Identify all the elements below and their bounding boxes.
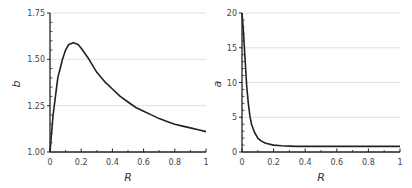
y-tick-label: 15 bbox=[227, 44, 237, 53]
y-tick-label: 1.00 bbox=[27, 148, 45, 157]
y-tick-label: 1.50 bbox=[27, 55, 45, 64]
y-tick-label: 20 bbox=[227, 9, 237, 18]
left-y-axis-label: b bbox=[10, 80, 23, 87]
x-tick-label: 0.6 bbox=[330, 158, 343, 167]
y-tick-label: 1.75 bbox=[27, 9, 45, 18]
x-tick-label: 0.6 bbox=[137, 158, 150, 167]
right-ticks: 0510152000.20.40.60.81 bbox=[227, 9, 403, 167]
x-tick-label: 0.4 bbox=[299, 158, 312, 167]
x-tick-label: 1 bbox=[397, 158, 402, 167]
a-curve bbox=[242, 13, 400, 146]
right-chart-a-vs-r: 0510152000.20.40.60.81 R a bbox=[211, 9, 403, 184]
right-gridlines bbox=[242, 13, 400, 117]
x-tick-label: 0.8 bbox=[362, 158, 375, 167]
x-tick-label: 0 bbox=[239, 158, 244, 167]
right-y-axis-label: a bbox=[211, 80, 224, 87]
y-tick-label: 10 bbox=[227, 79, 237, 88]
left-x-axis-label: R bbox=[124, 171, 132, 184]
right-x-axis-label: R bbox=[317, 171, 325, 184]
x-tick-label: 0.4 bbox=[106, 158, 119, 167]
x-tick-label: 0.2 bbox=[75, 158, 88, 167]
x-tick-label: 0 bbox=[47, 158, 52, 167]
left-gridlines bbox=[50, 13, 206, 106]
left-ticks: 1.001.251.501.7500.20.40.60.81 bbox=[27, 9, 208, 167]
y-tick-label: 1.25 bbox=[27, 102, 45, 111]
x-tick-label: 0.8 bbox=[168, 158, 181, 167]
chart-canvas: 1.001.251.501.7500.20.40.60.81 R b 05101… bbox=[0, 0, 412, 188]
y-tick-label: 0 bbox=[232, 148, 237, 157]
y-tick-label: 5 bbox=[232, 113, 237, 122]
x-tick-label: 1 bbox=[203, 158, 208, 167]
left-chart-b-vs-r: 1.001.251.501.7500.20.40.60.81 R b bbox=[10, 9, 209, 184]
x-tick-label: 0.2 bbox=[267, 158, 280, 167]
